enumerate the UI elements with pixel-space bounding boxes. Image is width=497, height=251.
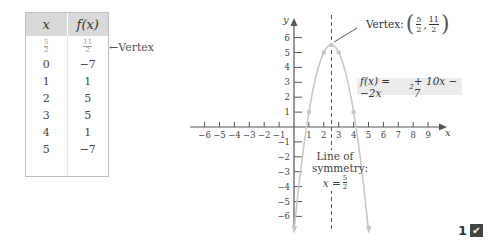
x-tick-label: −3: [243, 130, 256, 140]
curve-point: [351, 110, 356, 115]
curve-point: [329, 43, 334, 48]
x-tick-label: 5: [366, 130, 371, 140]
y-tick-label: 4: [285, 62, 290, 72]
symmetry-line1: Line of: [312, 150, 358, 162]
equation-suffix: + 10x − 7: [414, 75, 462, 99]
y-axis-label: y: [282, 14, 289, 25]
symmetry-eq-prefix: x =: [323, 177, 341, 189]
y-tick-label: 6: [285, 33, 290, 43]
curve-arrow-right-icon: [366, 226, 372, 234]
curve-arrow-left-icon: [292, 226, 298, 234]
symmetry-line2: symmetry:: [312, 162, 358, 174]
x-tick-label: 7: [396, 130, 401, 140]
badge-number: 1: [458, 223, 467, 238]
frac-den: 2: [416, 25, 421, 34]
frac-den: 2: [343, 183, 347, 191]
y-axis-arrow-icon: [291, 18, 298, 26]
x-tick-label: 6: [381, 130, 386, 140]
y-tick-label: 1: [285, 107, 290, 117]
y-tick-label: −6: [277, 211, 290, 221]
y-tick-label: −3: [277, 167, 290, 177]
frac-num: 11: [429, 15, 439, 24]
x-tick-label: 9: [425, 130, 430, 140]
x-tick-label: 2: [321, 130, 326, 140]
x-tick-label: −2: [258, 130, 271, 140]
y-tick-label: −1: [277, 137, 290, 147]
curve-point: [336, 50, 341, 55]
x-tick-label: 8: [410, 130, 415, 140]
x-ticks: [205, 122, 429, 127]
parabola-graph: −6−5−4−3−2−1123456789 654321−1−2−3−4−5−6…: [0, 0, 497, 251]
x-tick-label: 4: [351, 130, 356, 140]
x-tick-label: −4: [228, 130, 241, 140]
y-tick-label: −2: [277, 152, 290, 162]
vertex-annotation: Vertex: ( 52 , 112 ): [366, 14, 450, 34]
y-tick-label: 2: [285, 92, 290, 102]
y-tick-label: −4: [277, 182, 290, 192]
page-badge: 1 ✔: [458, 223, 483, 238]
x-tick-label: −6: [198, 130, 211, 140]
equation-prefix: f(x) = −2x: [360, 75, 409, 99]
curve-point: [307, 110, 312, 115]
x-tick-label: 3: [336, 130, 341, 140]
frac-num: 5: [343, 174, 347, 182]
y-tick-label: 3: [285, 77, 290, 87]
frac-den: 2: [431, 25, 436, 34]
symmetry-label: Line of symmetry: x = 52: [312, 150, 358, 191]
vertex-annotation-label: Vertex:: [366, 18, 404, 30]
y-tick-label: 5: [285, 48, 290, 58]
x-axis-label: x: [445, 127, 451, 138]
curve-point: [322, 50, 327, 55]
frac-num: 5: [416, 15, 421, 24]
x-tick-label: 1: [306, 130, 311, 140]
y-tick-label: −5: [277, 197, 290, 207]
checkmark-icon: ✔: [470, 224, 483, 237]
x-tick-labels: −6−5−4−3−2−1123456789: [198, 130, 430, 140]
equation-label: f(x) = −2x2 + 10x − 7: [357, 78, 462, 95]
vertex-leader-line: [334, 28, 357, 42]
x-tick-label: −5: [213, 130, 226, 140]
